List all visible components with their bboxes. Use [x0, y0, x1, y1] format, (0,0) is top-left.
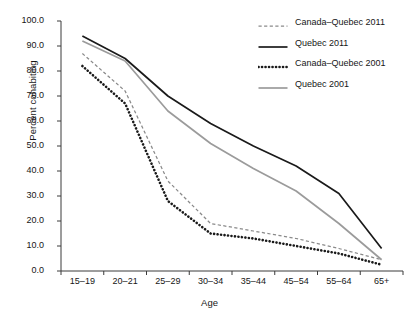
x-tick-label: 65+: [359, 276, 405, 286]
x-tick-label: 45–54: [273, 276, 319, 286]
legend-label: Quebec 2001: [295, 79, 349, 89]
chart-legend: Canada–Quebec 2011Quebec 2011Canada–Queb…: [258, 14, 418, 96]
x-tick-label: 20–21: [102, 276, 148, 286]
legend-label: Canada–Quebec 2011: [295, 17, 385, 27]
legend-item[interactable]: Quebec 2011: [258, 35, 418, 51]
y-tick-label: 60.0: [4, 115, 44, 125]
x-axis-title: Age: [0, 297, 419, 308]
y-axis-tick-labels: 0.010.020.030.040.050.060.070.080.090.01…: [4, 0, 44, 320]
x-tick-label: 25–29: [145, 276, 191, 286]
legend-swatch-icon: [258, 38, 288, 48]
legend-label: Quebec 2011: [295, 38, 348, 48]
legend-item[interactable]: Canada–Quebec 2011: [258, 14, 418, 30]
legend-label: Canada–Quebec 2001: [295, 58, 386, 68]
y-tick-label: 80.0: [4, 65, 44, 75]
x-tick-label: 55–64: [316, 276, 362, 286]
legend-swatch-icon: [258, 79, 288, 89]
y-tick-label: 50.0: [4, 140, 44, 150]
chart-container: 0.010.020.030.040.050.060.070.080.090.01…: [0, 0, 419, 320]
y-tick-label: 10.0: [4, 240, 44, 250]
x-tick-label: 30–34: [188, 276, 234, 286]
y-tick-label: 90.0: [4, 40, 44, 50]
y-axis-title: Percent cohabiting: [27, 21, 38, 181]
x-tick-label: 15–19: [59, 276, 105, 286]
legend-item[interactable]: Canada–Quebec 2001: [258, 55, 418, 71]
y-tick-label: 20.0: [4, 215, 44, 225]
y-tick-label: 30.0: [4, 190, 44, 200]
y-tick-label: 0.0: [4, 265, 44, 275]
y-tick-label: 100.0: [4, 15, 44, 25]
legend-item[interactable]: Quebec 2001: [258, 76, 418, 92]
x-tick-label: 35–44: [230, 276, 276, 286]
y-tick-label: 70.0: [4, 90, 44, 100]
legend-swatch-icon: [258, 58, 288, 68]
y-tick-label: 40.0: [4, 165, 44, 175]
legend-swatch-icon: [258, 17, 288, 27]
